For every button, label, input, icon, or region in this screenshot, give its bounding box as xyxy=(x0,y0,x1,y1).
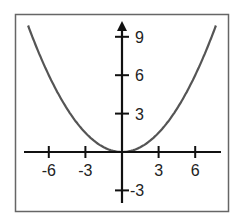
parabola-chart: -6-336 -3369 xyxy=(0,0,236,221)
y-tick-label: 6 xyxy=(135,67,144,84)
y-tick-label: 9 xyxy=(135,29,144,46)
x-tick-label: 3 xyxy=(154,162,163,179)
y-tick-label: 3 xyxy=(135,106,144,123)
x-tick-label: 6 xyxy=(191,162,200,179)
y-tick-label: -3 xyxy=(130,182,144,199)
x-tick-label: -6 xyxy=(42,162,56,179)
x-tick-label: -3 xyxy=(78,162,92,179)
